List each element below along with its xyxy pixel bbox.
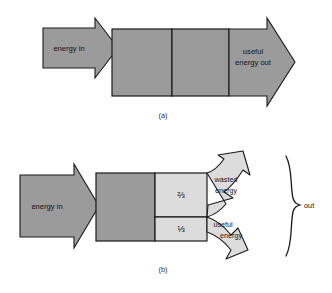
panel-b-energy-in-label: energy in	[31, 202, 62, 211]
panel-b-useful-fraction-label: ⅓	[177, 224, 185, 234]
panel-b-wasted-energy-label-line2: energy	[215, 186, 237, 195]
panel-b-useful-energy-label-line1: useful	[213, 220, 233, 229]
panel-b-wasted-energy-label-line1: wasted	[214, 175, 238, 184]
panel-a-useful-energy-out-label-line2: energy out	[235, 58, 272, 67]
panel-b-useful-energy-label-line2: energy	[220, 231, 242, 240]
panel-a-caption: (a)	[158, 111, 167, 120]
energy-flow-figure: energy in useful energy out (a) energy i…	[0, 0, 332, 293]
panel-b-caption: (b)	[158, 265, 167, 274]
panel-a-energy-in-label: energy in	[53, 44, 84, 53]
panel-b-out-label: out	[304, 201, 314, 210]
panel-a-system-box-left	[112, 29, 172, 96]
panel-a-system-box-right	[172, 29, 229, 96]
panel-b-wasted-energy-arrow	[207, 151, 250, 217]
panel-a-group: energy in useful energy out (a)	[43, 18, 295, 120]
panel-b-out-brace-icon	[286, 156, 300, 256]
figure-canvas: energy in useful energy out (a) energy i…	[0, 0, 332, 293]
panel-a-useful-energy-out-label-line1: useful	[243, 47, 264, 56]
panel-b-wasted-fraction-label: ⅔	[177, 190, 185, 200]
panel-b-group: energy in ⅔ ⅓ wasted energy useful energ…	[20, 151, 314, 274]
panel-b-system-box	[96, 173, 155, 241]
